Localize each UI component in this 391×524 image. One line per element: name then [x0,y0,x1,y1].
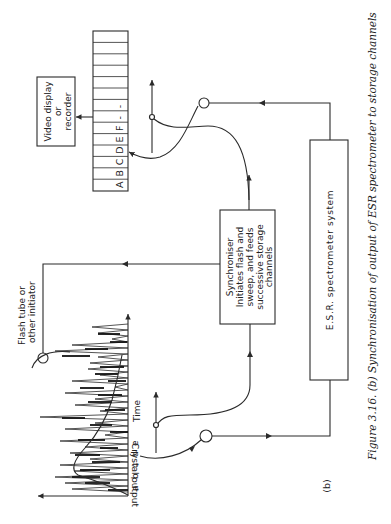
noise-spikes [40,324,128,492]
esr-synchronisation-diagram: A B C D E F - - Video display or recorde… [0,0,391,524]
storage-register: A B C D E F - - [93,31,128,191]
register-cell-label: F [114,126,125,131]
esr-to-upper-node-wire [209,103,330,140]
sync-to-lower-selector-curve [157,324,250,425]
register-cell-label: E [114,136,125,142]
synchroniser-desc-4: channels [264,247,274,288]
panel-label: (b) [321,479,332,492]
register-cell-label: B [114,170,125,177]
figure-caption: Figure 3.16. (b) Synchronisation of outp… [366,12,378,461]
flash-tube-reflector [32,352,70,368]
synchroniser-block: Synchroniser Initiates flash and sweep, … [220,210,275,324]
video-display-label-1: Video display [43,81,53,142]
video-display-label-2: or [53,107,63,117]
marker-d: d [130,451,140,457]
marker-c: c [130,463,140,468]
signal-node-lower [200,430,212,442]
sync-feed-curve [154,119,249,200]
synchroniser-desc-1: Initiates flash and [235,227,245,307]
register-cell-label: - [114,116,125,119]
marker-b: b [130,473,140,479]
video-display-label-3: recorder [63,92,73,130]
flash-tube-label-1: Flash tube or [17,286,27,345]
node-to-esr-wire [212,380,330,436]
esr-spectrometer-block: E.S.R. spectrometer system [310,140,348,380]
register-cell-label: A [114,181,125,188]
sync-to-flash-wire [43,264,220,353]
register-cell-label: D [114,146,125,153]
pivot-dot [150,115,155,120]
x-axis-label: Time [132,400,142,423]
marker-e: e [130,440,140,446]
channel-selector-upper [129,80,249,200]
esr-label: E.S.R. spectrometer system [325,190,335,330]
synchroniser-title: Synchroniser [225,237,235,296]
register-cell-label: - [114,105,125,108]
register-cell-label: C [114,158,125,165]
crystal-output-plot: Crystal output Time a b c d e [38,314,142,507]
pivot-dot-lower [154,423,159,428]
video-display-block: Video display or recorder [37,77,75,146]
marker-a: a [130,485,140,491]
signal-to-register-curve [129,106,198,158]
channel-selector-lower [140,392,212,458]
synchroniser-desc-2: sweep, and feeds [245,227,255,306]
flash-tube-label-2: other initiator [27,281,37,343]
signal-node-upper [199,98,209,108]
